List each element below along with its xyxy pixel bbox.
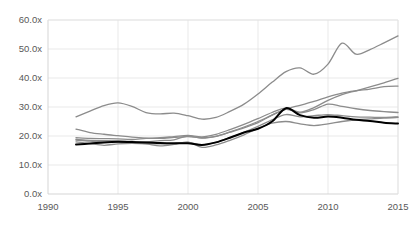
- y-tick-label: 40.0x: [19, 72, 42, 83]
- x-tick-label: 2015: [387, 201, 408, 212]
- y-tick-label: 30.0x: [19, 101, 42, 112]
- x-tick-label: 2005: [247, 201, 268, 212]
- x-tick-label: 1995: [107, 201, 128, 212]
- x-axis-tick-labels: 199019952000200520102015: [37, 201, 408, 212]
- line-chart: 0.0x10.0x20.0x30.0x40.0x50.0x60.0x 19901…: [0, 0, 415, 231]
- y-tick-label: 0.0x: [24, 188, 42, 199]
- x-tick-label: 2000: [177, 201, 198, 212]
- y-axis-tick-labels: 0.0x10.0x20.0x30.0x40.0x50.0x60.0x: [19, 14, 42, 199]
- y-tick-label: 10.0x: [19, 159, 42, 170]
- x-tick-label: 2010: [317, 201, 338, 212]
- y-tick-label: 50.0x: [19, 43, 42, 54]
- y-tick-label: 60.0x: [19, 14, 42, 25]
- y-tick-label: 20.0x: [19, 130, 42, 141]
- chart-canvas: 0.0x10.0x20.0x30.0x40.0x50.0x60.0x 19901…: [0, 0, 415, 231]
- series-group: [76, 36, 398, 147]
- x-tick-label: 1990: [37, 201, 58, 212]
